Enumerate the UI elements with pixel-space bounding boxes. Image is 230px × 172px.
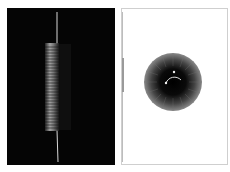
- sphere-dot-left: [165, 82, 167, 84]
- sphere-dot-top: [173, 71, 175, 73]
- artwork: [0, 0, 230, 172]
- sphere-illustration: [144, 53, 202, 111]
- book-spread: [0, 0, 230, 172]
- spring-wire-bottom: [57, 130, 58, 162]
- spring-illustration: [45, 12, 71, 162]
- spring-shadow: [59, 44, 71, 130]
